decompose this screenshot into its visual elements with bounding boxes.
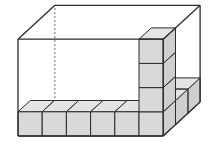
box-left-top-edge <box>18 5 55 39</box>
cube-front-face <box>42 112 66 136</box>
cube-box-figure <box>0 0 209 144</box>
cube-front-face <box>115 112 139 136</box>
box-diagram <box>0 0 209 144</box>
cube-front-face <box>139 112 163 136</box>
cube-front-face <box>91 112 115 136</box>
cube-front-face <box>139 63 163 87</box>
cube-front-face <box>139 39 163 63</box>
box-right-top-edge <box>163 5 200 39</box>
cube-front-face <box>18 112 42 136</box>
cube-front-face <box>66 112 90 136</box>
cube-front-face <box>139 88 163 112</box>
